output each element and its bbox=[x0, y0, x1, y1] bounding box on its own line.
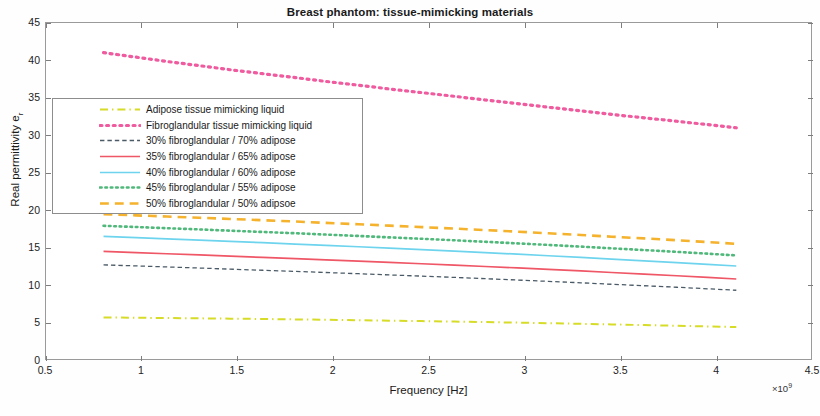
legend-item[interactable]: 35% fibroglandular / 65% adipose bbox=[53, 149, 362, 165]
legend-line-sample bbox=[99, 135, 141, 146]
legend-item-label: 40% fibroglandular / 60% adipose bbox=[146, 167, 296, 178]
legend-line-sample bbox=[99, 198, 141, 209]
x-axis-tick-label: 2 bbox=[330, 364, 336, 376]
legend-item-label: Fibroglandular tissue mimicking liquid bbox=[146, 120, 312, 131]
series-line bbox=[104, 251, 737, 279]
y-axis-label: Real permittivity er bbox=[9, 60, 24, 260]
series-line bbox=[104, 317, 737, 327]
y-axis-label-subscript: r bbox=[16, 113, 25, 116]
series-line bbox=[104, 265, 737, 290]
legend-item[interactable]: 50% fibroglandular / 50% adipsoe bbox=[53, 196, 362, 212]
x-axis-tick-label: 3 bbox=[521, 364, 527, 376]
legend-item[interactable]: Fibroglandular tissue mimicking liquid bbox=[53, 118, 362, 134]
y-axis-tick-label: 5 bbox=[12, 316, 40, 328]
x-axis-tick-labels: 0.511.522.533.544.5 bbox=[45, 364, 812, 380]
legend-line-sample bbox=[99, 104, 141, 115]
legend-item[interactable]: 40% fibroglandular / 60% adipose bbox=[53, 164, 362, 180]
legend-item[interactable]: 45% fibroglandular / 55% adipose bbox=[53, 180, 362, 196]
x-axis-tick-label: 3.5 bbox=[613, 364, 628, 376]
legend-item[interactable]: 30% fibroglandular / 70% adipose bbox=[53, 133, 362, 149]
legend-line-sample bbox=[99, 151, 141, 162]
legend: Adipose tissue mimicking liquidFibroglan… bbox=[52, 98, 363, 214]
y-axis-tick-label: 10 bbox=[12, 279, 40, 291]
legend-item-label: 30% fibroglandular / 70% adipose bbox=[146, 135, 296, 146]
x-axis-exponent-prefix: ×10 bbox=[772, 383, 788, 394]
legend-item-label: Adipose tissue mimicking liquid bbox=[146, 104, 284, 115]
y-axis-label-text: Real permittivity e bbox=[9, 115, 21, 206]
legend-item-label: 35% fibroglandular / 65% adipose bbox=[146, 151, 296, 162]
legend-item[interactable]: Adipose tissue mimicking liquid bbox=[53, 102, 362, 118]
legend-line-sample bbox=[99, 182, 141, 193]
x-axis-tick-label: 1 bbox=[138, 364, 144, 376]
legend-line-sample bbox=[99, 120, 141, 131]
x-axis-exponent-power: 9 bbox=[788, 382, 792, 389]
x-axis-tick-label: 4 bbox=[713, 364, 719, 376]
y-axis-tick-label: 0 bbox=[12, 354, 40, 366]
x-axis-tick-label: 4.5 bbox=[805, 364, 820, 376]
x-axis-tick-label: 0.5 bbox=[38, 364, 53, 376]
legend-item-label: 45% fibroglandular / 55% adipose bbox=[146, 182, 296, 193]
legend-item-label: 50% fibroglandular / 50% adipsoe bbox=[146, 198, 296, 209]
x-axis-tick-label: 1.5 bbox=[229, 364, 244, 376]
x-axis-exponent: ×109 bbox=[772, 382, 792, 394]
x-axis-label: Frequency [Hz] bbox=[45, 384, 812, 396]
legend-line-sample bbox=[99, 167, 141, 178]
chart-title: Breast phantom: tissue-mimicking materia… bbox=[0, 6, 820, 18]
chart-figure: Breast phantom: tissue-mimicking materia… bbox=[0, 0, 820, 416]
y-axis-tick-label: 45 bbox=[12, 16, 40, 28]
x-axis-tick-label: 2.5 bbox=[421, 364, 436, 376]
